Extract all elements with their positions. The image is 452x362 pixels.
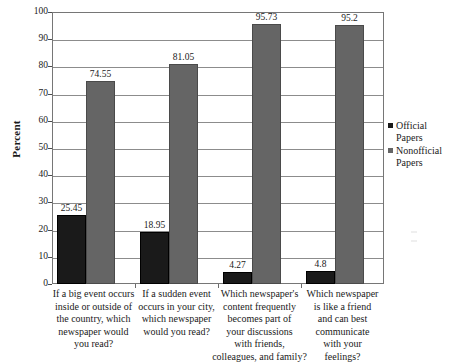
y-axis-tick-label: 60: [24, 116, 48, 126]
bar-value-label: 4.8: [300, 259, 341, 269]
legend-label-nonofficial-line1: Nonofficial: [396, 145, 450, 157]
category-label-line: you read?: [43, 338, 144, 351]
bar-official: [223, 272, 252, 284]
bar-value-label: 18.95: [134, 220, 175, 230]
y-axis-tick-label: 10: [24, 252, 48, 262]
category-label-line: is like a friend: [292, 301, 393, 314]
legend-swatch-nonofficial-icon: [388, 148, 393, 153]
legend-label-official-line1: Official: [396, 120, 450, 132]
y-axis-tick-label: 70: [24, 89, 48, 99]
legend-item-official[interactable]: Official Papers: [388, 120, 450, 144]
scan-artifact: [411, 228, 417, 248]
legend-swatch-official-icon: [388, 123, 393, 128]
y-axis-tick-label: 20: [24, 225, 48, 235]
bar-value-label: 4.27: [217, 260, 258, 270]
legend: Official Papers Nonofficial Papers: [388, 120, 450, 170]
bar-value-label: 95.73: [246, 12, 287, 22]
category-label-line: communicate: [292, 326, 393, 339]
bar-nonofficial: [86, 81, 115, 284]
bar-value-label: 74.55: [80, 69, 121, 79]
category-label-line: Which newspaper: [292, 288, 393, 301]
bar-nonofficial: [252, 24, 281, 284]
legend-item-nonofficial[interactable]: Nonofficial Papers: [388, 145, 450, 169]
category-label-line: feelings?: [292, 351, 393, 362]
category-label-line: with your: [292, 338, 393, 351]
y-axis-tick-label: 30: [24, 197, 48, 207]
y-axis-tick-mark: [48, 284, 52, 285]
bar-official: [306, 271, 335, 284]
bar-value-label: 81.05: [163, 52, 204, 62]
y-axis-tick-label: 90: [24, 34, 48, 44]
y-axis-title: Percent: [10, 104, 22, 174]
legend-label-nonofficial-line2: Papers: [396, 157, 450, 169]
bar-chart: Percent 0102030405060708090100 25.4574.5…: [0, 0, 452, 362]
bar-value-label: 25.45: [51, 203, 92, 213]
category-label-line: and can best: [292, 313, 393, 326]
bars-layer: [52, 12, 384, 284]
x-axis-category-labels: If a big event occursinside or outside o…: [52, 288, 384, 362]
bar-official: [57, 215, 86, 284]
y-axis-tick-label: 50: [24, 143, 48, 153]
bar-nonofficial: [335, 25, 364, 284]
bar-official: [140, 232, 169, 284]
y-axis-tick-label: 100: [24, 7, 48, 17]
y-axis-tick-label: 40: [24, 170, 48, 180]
x-axis-category-label: Which newspaperis like a friendand can b…: [292, 288, 393, 362]
legend-label-official-line2: Papers: [396, 132, 450, 144]
bar-nonofficial: [169, 64, 198, 284]
bar-value-label: 95.2: [329, 13, 370, 23]
y-axis-tick-labels: 0102030405060708090100: [22, 12, 48, 284]
y-axis-tick-label: 80: [24, 61, 48, 71]
